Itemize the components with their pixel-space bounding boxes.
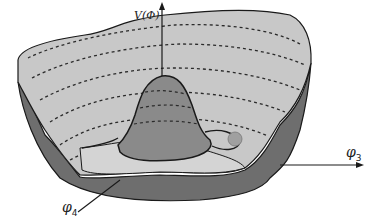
phi3-label: φ3 — [346, 144, 362, 163]
mexican-hat-potential-diagram: V(Φ) φ3 φ4 — [0, 0, 377, 224]
phi4-label: φ4 — [62, 199, 78, 218]
ball-in-trough — [228, 132, 242, 146]
vertical-axis-label: V(Φ) — [134, 9, 160, 22]
